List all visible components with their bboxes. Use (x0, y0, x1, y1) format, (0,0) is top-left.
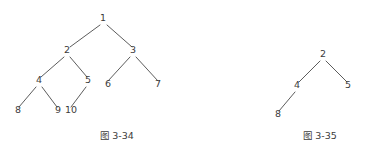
tree-node-9: 9 (55, 105, 61, 115)
tree-node-2: 2 (320, 49, 326, 59)
tree-edges-fig-3-35 (279, 61, 347, 111)
tree-node-10: 10 (65, 105, 77, 115)
tree-edge (279, 92, 295, 111)
tree-edge (107, 25, 132, 47)
tree-node-5: 5 (345, 80, 351, 90)
figure-canvas: 12345678910图3-342458图3-35 (0, 0, 365, 149)
tree-node-5: 5 (85, 75, 91, 85)
tree-node-4: 4 (36, 75, 42, 85)
tree-node-4: 4 (294, 80, 300, 90)
tree-node-1: 1 (100, 13, 106, 23)
tree-edge (70, 25, 100, 47)
tree-edge (108, 57, 130, 81)
tree-node-6: 6 (105, 79, 111, 89)
tree-node-8: 8 (275, 109, 281, 119)
figure-caption-fig-3-35: 图3-35 (303, 131, 337, 141)
tree-edge (299, 61, 320, 82)
tree-node-7: 7 (155, 79, 161, 89)
tree-node-8: 8 (15, 105, 21, 115)
figure-caption-fig-3-34: 图3-34 (100, 131, 134, 141)
caption-prefix: 图 (100, 130, 110, 141)
tree-node-3: 3 (130, 45, 136, 55)
tree-edges-fig-3-34 (19, 25, 158, 107)
tree-edge (19, 87, 36, 107)
caption-prefix: 图 (303, 130, 313, 141)
caption-number: 3-34 (112, 130, 134, 141)
tree-edge (41, 57, 64, 77)
caption-number: 3-35 (315, 130, 337, 141)
tree-edge (326, 61, 347, 82)
tree-node-2: 2 (64, 45, 70, 55)
tree-edges-layer (0, 0, 365, 149)
